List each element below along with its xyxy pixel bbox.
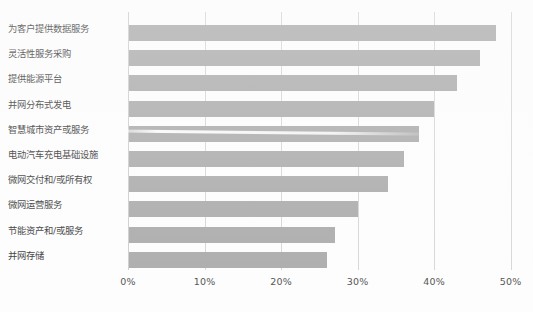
x-tick-label: 20%: [270, 276, 292, 287]
plot-area: [128, 12, 511, 270]
bar: [128, 252, 327, 268]
category-label: 微网运营服务: [8, 198, 128, 212]
category-label: 节能资产和/或服务: [8, 224, 128, 238]
category-label: 微网交付和/或所有权: [8, 173, 128, 187]
bar: [128, 101, 434, 117]
category-label: 提供能源平台: [8, 72, 128, 86]
x-tick-label: 0%: [120, 276, 135, 287]
bar: [128, 201, 358, 217]
category-label: 并网分布式发电: [8, 98, 128, 112]
x-tick-label: 40%: [423, 276, 445, 287]
category-label: 并网存储: [8, 249, 128, 263]
category-label: 为客户提供数据服务: [8, 22, 128, 36]
x-tick-label: 30%: [347, 276, 369, 287]
category-label: 智慧城市资产或服务: [8, 123, 128, 137]
category-label: 电动汽车充电基础设施: [8, 148, 128, 162]
y-axis-line: [128, 12, 129, 270]
bar: [128, 75, 457, 91]
bar: [128, 126, 419, 142]
bar-chart: 为客户提供数据服务 灵活性服务采购 提供能源平台 并网分布式发电 智慧城市资产或…: [0, 0, 533, 312]
x-tick-label: 50%: [500, 276, 522, 287]
gridline-50: [511, 12, 512, 270]
category-label: 灵活性服务采购: [8, 47, 128, 61]
bar: [128, 176, 388, 192]
bar: [128, 227, 335, 243]
bar: [128, 25, 496, 41]
bar: [128, 50, 480, 66]
x-tick-label: 10%: [194, 276, 216, 287]
bar: [128, 151, 404, 167]
